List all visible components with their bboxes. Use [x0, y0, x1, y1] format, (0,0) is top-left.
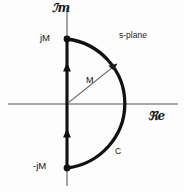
direction-arrowhead-upper	[63, 62, 71, 72]
plane-label: s-plane	[119, 31, 147, 40]
imaginary-axis-label: ℐm	[52, 2, 70, 14]
radius-line	[68, 67, 113, 103]
upper-point-label: jM	[40, 33, 50, 43]
contour-label: C	[115, 147, 121, 156]
direction-arrowhead-lower	[63, 128, 71, 138]
radius-label: M	[86, 76, 94, 85]
contour-graphic	[0, 0, 184, 192]
s-plane-diagram: ℐm ℜe s-plane jM -jM M C	[0, 0, 184, 192]
lower-point-label: -jM	[33, 161, 46, 171]
endpoint-dot-upper	[64, 36, 71, 43]
real-axis-label: ℜe	[148, 110, 165, 122]
endpoint-dot-lower	[64, 165, 71, 172]
